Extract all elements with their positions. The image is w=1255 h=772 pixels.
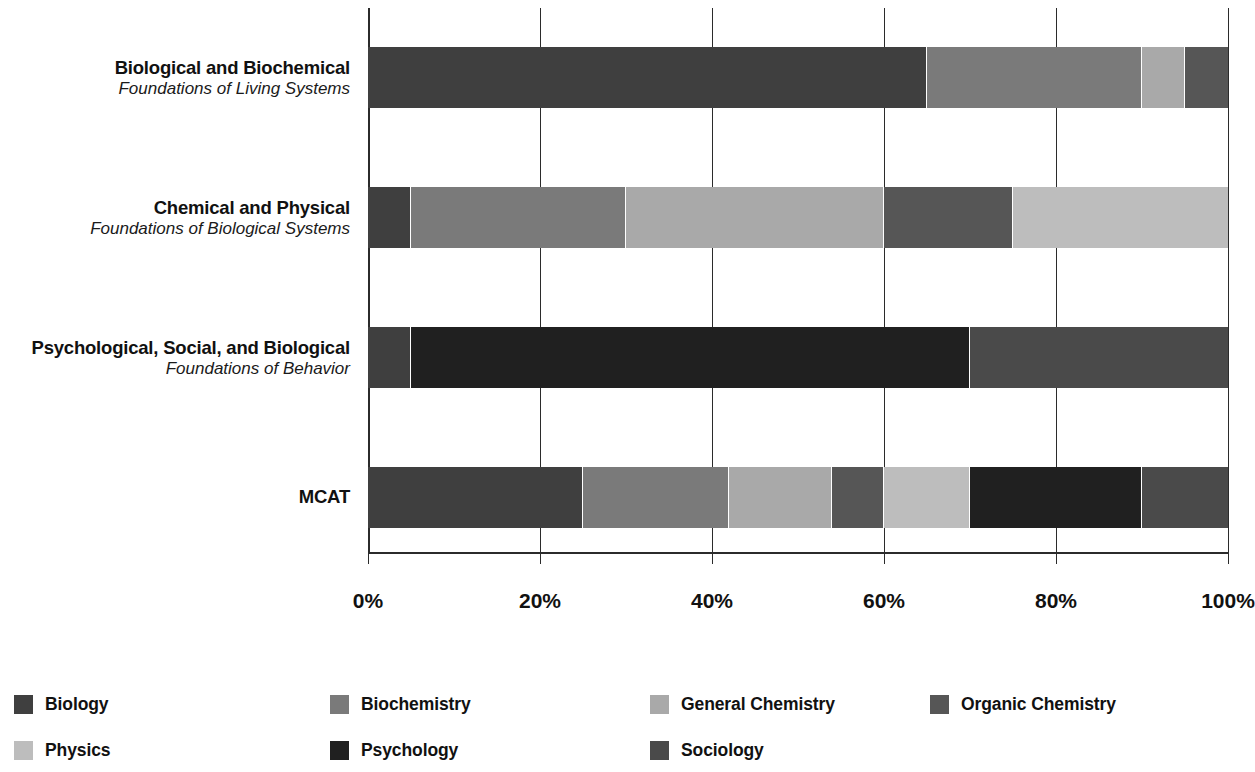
category-label: Psychological, Social, and BiologicalFou…: [0, 337, 350, 379]
bar-segment-psychology: [411, 327, 970, 388]
category-label: Biological and BiochemicalFoundations of…: [0, 57, 350, 99]
legend-item-sociology: Sociology: [650, 740, 764, 761]
category-label-primary: Psychological, Social, and Biological: [0, 337, 350, 359]
bar-row: [368, 187, 1228, 248]
bar-segment-physics: [884, 467, 970, 528]
bar-segment-biochemistry: [411, 187, 626, 248]
bar-segment-sociology: [970, 327, 1228, 388]
bar-segment-general-chemistry: [626, 187, 884, 248]
legend-item-psychology: Psychology: [330, 740, 458, 761]
category-label-primary: Chemical and Physical: [0, 197, 350, 219]
legend-label: Sociology: [681, 740, 764, 761]
stacked-bar-chart: Biological and BiochemicalFoundations of…: [0, 0, 1251, 640]
legend-swatch-icon: [14, 695, 33, 714]
x-tick-label: 20%: [519, 589, 561, 613]
tick-0: [368, 552, 369, 564]
legend-swatch-icon: [650, 695, 669, 714]
legend-item-physics: Physics: [14, 740, 110, 761]
bar-segment-biology: [368, 467, 583, 528]
bar-segment-biochemistry: [583, 467, 729, 528]
category-label-secondary: Foundations of Living Systems: [0, 79, 350, 99]
legend-swatch-icon: [14, 741, 33, 760]
bar-segment-sociology: [1142, 467, 1228, 528]
bar-segment-general-chemistry: [729, 467, 832, 528]
x-tick-label: 0%: [353, 589, 383, 613]
legend-label: Organic Chemistry: [961, 694, 1116, 715]
tick-100: [1228, 552, 1229, 564]
bar-segment-organic-chemistry: [1185, 47, 1228, 108]
bar-row: [368, 327, 1228, 388]
bar-segment-physics: [1013, 187, 1228, 248]
category-label-primary: Biological and Biochemical: [0, 57, 350, 79]
legend-item-biochemistry: Biochemistry: [330, 694, 471, 715]
bar-segment-general-chemistry: [1142, 47, 1185, 108]
legend-item-general-chemistry: General Chemistry: [650, 694, 835, 715]
tick-80: [1056, 552, 1057, 564]
bar-segment-biology: [368, 327, 411, 388]
x-tick-label: 80%: [1035, 589, 1077, 613]
bar-segment-psychology: [970, 467, 1142, 528]
legend-item-organic-chemistry: Organic Chemistry: [930, 694, 1116, 715]
category-label: Chemical and PhysicalFoundations of Biol…: [0, 197, 350, 239]
x-tick-label: 60%: [863, 589, 905, 613]
legend-swatch-icon: [330, 695, 349, 714]
x-tick-label: 100%: [1201, 589, 1255, 613]
bar-row: [368, 467, 1228, 528]
category-label-secondary: Foundations of Behavior: [0, 359, 350, 379]
legend-swatch-icon: [330, 741, 349, 760]
tick-40: [712, 552, 713, 564]
legend-item-biology: Biology: [14, 694, 108, 715]
bar-segment-biology: [368, 187, 411, 248]
legend-label: Biology: [45, 694, 108, 715]
legend-label: General Chemistry: [681, 694, 835, 715]
legend-label: Biochemistry: [361, 694, 471, 715]
category-label-secondary: Foundations of Biological Systems: [0, 219, 350, 239]
category-label-primary: MCAT: [0, 486, 350, 508]
legend-swatch-icon: [650, 741, 669, 760]
bar-row: [368, 47, 1228, 108]
legend-label: Physics: [45, 740, 110, 761]
tick-20: [540, 552, 541, 564]
category-label: MCAT: [0, 486, 350, 508]
bar-segment-organic-chemistry: [832, 467, 884, 528]
bar-segment-biology: [368, 47, 927, 108]
legend-label: Psychology: [361, 740, 458, 761]
x-tick-label: 40%: [691, 589, 733, 613]
bar-segment-organic-chemistry: [884, 187, 1013, 248]
legend-swatch-icon: [930, 695, 949, 714]
chart-legend: BiologyBiochemistryGeneral ChemistryOrga…: [0, 660, 1251, 772]
bar-segment-biochemistry: [927, 47, 1142, 108]
x-axis-line: [368, 552, 1229, 554]
tick-60: [884, 552, 885, 564]
